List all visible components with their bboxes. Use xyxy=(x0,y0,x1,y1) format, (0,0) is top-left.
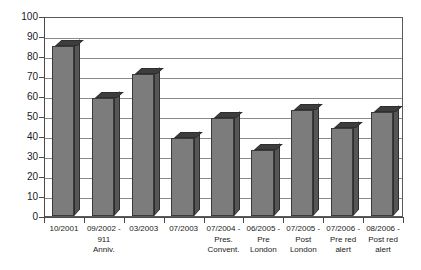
bar-front-face xyxy=(291,110,313,216)
bar-side-face xyxy=(74,39,80,216)
x-axis-category-label: 07/2003 xyxy=(162,224,206,235)
bar xyxy=(52,40,74,216)
bar-side-face xyxy=(114,91,120,216)
x-axis-category-label-line: Anniv. xyxy=(82,245,126,256)
x-axis-tick xyxy=(164,218,165,223)
bar-side-face xyxy=(194,131,200,216)
y-axis-tick xyxy=(39,197,45,198)
x-axis-tick xyxy=(283,218,284,223)
x-axis-category-label-line: 07/2003 xyxy=(162,224,206,235)
bar-front-face xyxy=(251,150,273,216)
y-axis-tick xyxy=(39,137,45,138)
x-axis-category-label-line: Pre xyxy=(241,235,285,246)
bar-side-face xyxy=(154,67,160,216)
bar-side-face xyxy=(353,121,359,216)
x-axis-tick xyxy=(243,218,244,223)
x-axis-category-label: 08/2006 -Post redalert xyxy=(361,224,405,256)
x-axis-category-label-line: 07/2006 - xyxy=(321,224,365,235)
x-axis-category-label-line: 07/2004 - xyxy=(202,224,246,235)
gridline xyxy=(45,38,402,39)
y-axis-tick-label: 100 xyxy=(4,12,38,22)
x-axis-category-label-line: 03/2003 xyxy=(122,224,166,235)
x-axis-category-label-line: 09/2002 - xyxy=(82,224,126,235)
bar xyxy=(251,144,273,216)
y-axis-tick xyxy=(39,57,45,58)
bar-side-face xyxy=(274,143,280,216)
x-axis-category-label: 07/2006 -Pre redalert xyxy=(321,224,365,256)
x-axis-category-label-line: Pre red xyxy=(321,235,365,246)
x-axis-category-label: 07/2005 -PostLondon xyxy=(281,224,325,256)
y-axis-tick xyxy=(39,97,45,98)
y-axis-tick xyxy=(39,17,45,18)
y-axis-tick xyxy=(39,37,45,38)
bar-front-face xyxy=(92,98,114,216)
x-axis-category-label-line: Convent. xyxy=(202,245,246,256)
x-axis-category-label-line: London xyxy=(241,245,285,256)
y-axis-tick xyxy=(39,77,45,78)
x-axis-tick xyxy=(323,218,324,223)
x-axis-category-label-line: 08/2006 - xyxy=(361,224,405,235)
bar-side-face xyxy=(313,103,319,216)
bar-side-face xyxy=(234,111,240,216)
x-axis-category-label-line: Post red xyxy=(361,235,405,246)
y-axis-tick-label: 90 xyxy=(4,32,38,42)
bar-front-face xyxy=(52,46,74,216)
bar xyxy=(92,92,114,216)
bar-front-face xyxy=(132,74,154,216)
x-axis-category-label-line: London xyxy=(281,245,325,256)
x-axis-category-label-line: 07/2005 - xyxy=(281,224,325,235)
x-axis-category-label: 03/2003 xyxy=(122,224,166,235)
x-axis-labels: 10/200109/2002 -911Anniv.03/200307/20030… xyxy=(44,224,403,270)
gridline xyxy=(45,58,402,59)
plot-area xyxy=(44,17,403,217)
x-axis-line xyxy=(44,217,404,218)
y-axis-tick-label: 30 xyxy=(4,152,38,162)
x-axis-tick xyxy=(363,218,364,223)
y-axis-tick-label: 0 xyxy=(4,212,38,222)
x-axis-category-label-line: Post xyxy=(281,235,325,246)
bar xyxy=(331,122,353,216)
bar xyxy=(371,106,393,216)
x-axis-category-label: 09/2002 -911Anniv. xyxy=(82,224,126,256)
bar-front-face xyxy=(171,138,193,216)
y-axis-tick-label: 80 xyxy=(4,52,38,62)
x-axis-tick xyxy=(44,218,45,223)
y-axis-tick-label: 10 xyxy=(4,192,38,202)
y-axis-labels: 0102030405060708090100 xyxy=(0,0,38,270)
x-axis-category-label: 10/2001 xyxy=(42,224,86,235)
y-axis-tick xyxy=(39,117,45,118)
x-axis-category-label-line: 10/2001 xyxy=(42,224,86,235)
x-axis-category-label-line: 06/2005 - xyxy=(241,224,285,235)
bar xyxy=(291,104,313,216)
bar-chart: 0102030405060708090100 10/200109/2002 -9… xyxy=(0,0,421,270)
bar-side-face xyxy=(393,105,399,216)
x-axis-category-label: 07/2004 -Pres.Convent. xyxy=(202,224,246,256)
x-axis-category-label: 06/2005 -PreLondon xyxy=(241,224,285,256)
x-axis-category-label-line: 911 xyxy=(82,235,126,246)
y-axis-tick-label: 60 xyxy=(4,92,38,102)
bar xyxy=(132,68,154,216)
y-axis-tick xyxy=(39,157,45,158)
y-axis-tick-label: 50 xyxy=(4,112,38,122)
x-axis-tick xyxy=(403,218,404,223)
y-axis-tick-label: 20 xyxy=(4,172,38,182)
x-axis-tick xyxy=(84,218,85,223)
bar-front-face xyxy=(211,118,233,216)
bar-front-face xyxy=(331,128,353,216)
gridline xyxy=(45,78,402,79)
x-axis-category-label-line: alert xyxy=(361,245,405,256)
y-axis-tick-label: 70 xyxy=(4,72,38,82)
x-axis-tick xyxy=(124,218,125,223)
y-axis-tick xyxy=(39,177,45,178)
bar-front-face xyxy=(371,112,393,216)
x-axis-category-label-line: alert xyxy=(321,245,365,256)
y-axis-tick-label: 40 xyxy=(4,132,38,142)
bar xyxy=(171,132,193,216)
x-axis-category-label-line: Pres. xyxy=(202,235,246,246)
bar xyxy=(211,112,233,216)
x-axis-tick xyxy=(204,218,205,223)
